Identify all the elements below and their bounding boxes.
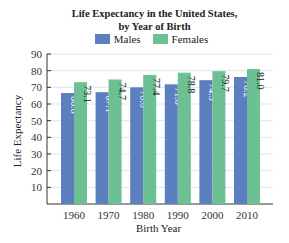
y-tick-label: 60 xyxy=(31,98,43,110)
x-tick-label: 2010 xyxy=(236,209,259,221)
x-tick-label: 2000 xyxy=(201,209,224,221)
x-tick-label: 1980 xyxy=(132,209,155,221)
bar-chart-plot: 10203040506070809066.673.1196067.174.719… xyxy=(0,0,289,243)
bar-value-label: 74.7 xyxy=(117,83,128,101)
bar-value-label: 73.1 xyxy=(82,85,93,103)
y-tick-label: 70 xyxy=(31,81,43,93)
y-tick-label: 90 xyxy=(31,48,43,60)
x-tick-label: 1960 xyxy=(63,209,86,221)
y-tick-label: 50 xyxy=(31,115,43,127)
bar-value-label: 79.7 xyxy=(220,74,231,92)
y-tick-label: 40 xyxy=(31,131,43,143)
bar-value-label: 77.4 xyxy=(151,78,162,96)
bar-value-label: 78.8 xyxy=(186,76,197,94)
y-tick-label: 80 xyxy=(31,65,43,77)
y-tick-label: 30 xyxy=(31,148,43,160)
x-tick-label: 1970 xyxy=(98,209,121,221)
x-axis-label: Birth Year xyxy=(0,222,289,234)
y-tick-label: 10 xyxy=(31,181,43,193)
bar-value-label: 81.0 xyxy=(255,72,266,90)
y-axis-label: Life Expectancy xyxy=(11,86,23,176)
y-tick-label: 20 xyxy=(31,165,43,177)
x-tick-label: 1990 xyxy=(167,209,190,221)
